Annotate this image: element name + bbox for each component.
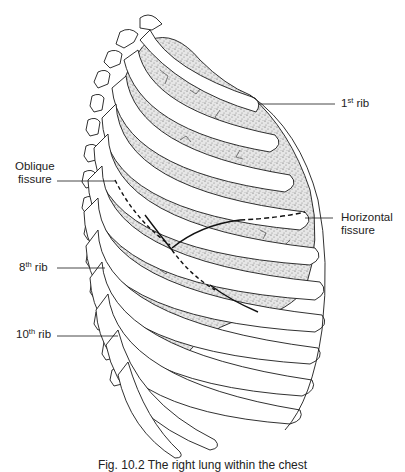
label-line1: Horizontal: [341, 211, 393, 224]
label-superscript: th: [29, 327, 35, 336]
label-text: rib: [353, 97, 369, 109]
label-1st-rib: 1st rib: [341, 97, 369, 111]
label-line2: fissure: [15, 173, 55, 186]
label-horizontal-fissure: Horizontal fissure: [341, 211, 393, 237]
label-line2: fissure: [341, 224, 393, 237]
figure-caption: Fig. 10.2 The right lung within the ches…: [0, 458, 405, 472]
label-text: rib: [35, 328, 51, 340]
label-10th-rib: 10th rib: [16, 328, 51, 342]
label-superscript: th: [25, 260, 31, 269]
label-8th-rib: 8th rib: [19, 261, 48, 275]
label-line1: Oblique: [15, 160, 55, 173]
label-text: rib: [32, 261, 48, 273]
label-number: 10: [16, 328, 29, 340]
label-superscript: st: [347, 96, 353, 105]
label-oblique-fissure: Oblique fissure: [15, 160, 55, 186]
